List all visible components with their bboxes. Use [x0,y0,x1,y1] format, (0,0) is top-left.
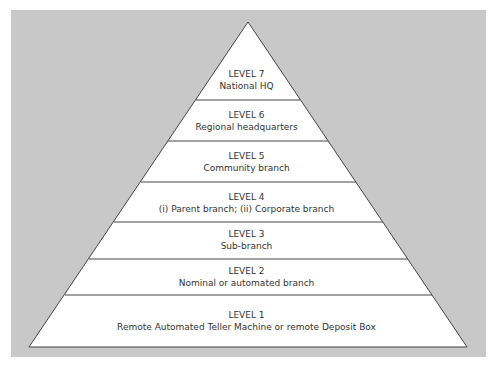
pyramid-level-3: LEVEL 3Sub-branch [0,228,493,252]
level-number: LEVEL 5 [0,150,493,162]
level-number: LEVEL 6 [0,109,493,121]
pyramid-level-6: LEVEL 6Regional headquarters [0,109,493,133]
level-name: Regional headquarters [0,121,493,133]
level-name: Sub-branch [0,240,493,252]
level-name: National HQ [0,80,493,92]
level-number: LEVEL 3 [0,228,493,240]
pyramid-level-5: LEVEL 5Community branch [0,150,493,174]
pyramid-level-4: LEVEL 4(i) Parent branch; (ii) Corporate… [0,191,493,215]
level-number: LEVEL 1 [0,309,493,321]
level-name: (i) Parent branch; (ii) Corporate branch [0,203,493,215]
pyramid-level-7: LEVEL 7National HQ [0,68,493,92]
level-number: LEVEL 4 [0,191,493,203]
level-name: Nominal or automated branch [0,277,493,289]
level-number: LEVEL 7 [0,68,493,80]
pyramid-level-2: LEVEL 2Nominal or automated branch [0,265,493,289]
level-name: Community branch [0,162,493,174]
pyramid-level-1: LEVEL 1Remote Automated Teller Machine o… [0,309,493,333]
level-name: Remote Automated Teller Machine or remot… [0,321,493,333]
level-number: LEVEL 2 [0,265,493,277]
